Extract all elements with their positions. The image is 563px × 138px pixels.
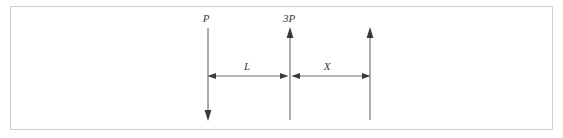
force-p-arrowhead-down: [205, 110, 212, 121]
force-3p-label: 3P: [282, 12, 296, 24]
dimension-l: L: [208, 60, 289, 79]
figure-root: P 3P L X: [0, 0, 563, 138]
force-arrow-3p: 3P: [282, 12, 296, 120]
dimension-l-arrowhead-right: [280, 73, 289, 79]
force-3p-arrowhead-up: [287, 27, 294, 38]
beam-load-diagram: P 3P L X: [0, 0, 563, 138]
dimension-l-label: L: [243, 60, 250, 72]
dimension-x-arrowhead-right: [362, 73, 371, 79]
force-arrow-p: P: [202, 12, 212, 121]
dimension-x-label: X: [323, 60, 332, 72]
force-arrow-reaction: [367, 27, 374, 120]
dimension-l-arrowhead-left: [208, 73, 217, 79]
dimension-x-arrowhead-left: [292, 73, 301, 79]
dimension-x: X: [292, 60, 371, 79]
force-reaction-arrowhead-up: [367, 27, 374, 38]
force-p-label: P: [202, 12, 210, 24]
